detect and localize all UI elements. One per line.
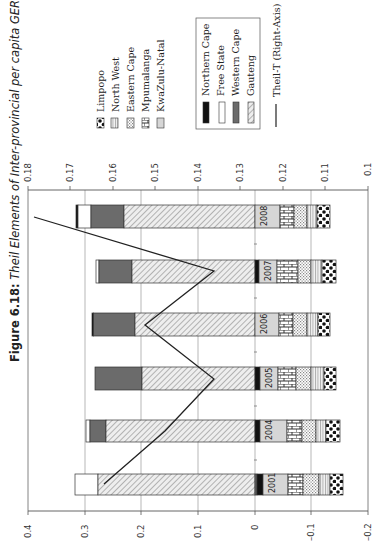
legend-swatch-western-cape (233, 102, 239, 123)
legend-swatch-gauteng (248, 102, 254, 123)
legend-swatch-free-state (219, 102, 225, 123)
right-tick: 0.18 (23, 163, 33, 182)
year-label: 2006 (260, 314, 269, 334)
legend-swatch-northern-cape (203, 102, 209, 123)
legend-label-free-state: Free State (215, 45, 226, 96)
legend-swatch-eastern-cape (127, 118, 134, 128)
left-tick: –0.2 (363, 523, 373, 541)
legend-label-theil-t: Theil-T (Right-Axis) (271, 4, 282, 97)
bar-2008 (76, 205, 330, 228)
chart-canvas (0, 0, 382, 558)
legend-swatch-north-west (111, 118, 118, 128)
left-tick: 0.1 (193, 524, 203, 538)
legend-label-north-west: North West (110, 57, 121, 112)
year-label: 2007 (264, 261, 273, 281)
year-label: 2005 (265, 368, 274, 388)
figure-title: Figure 6.18: Theil Elements of Inter-pro… (8, 0, 22, 362)
year-label: 2004 (265, 420, 274, 440)
year-label: 2008 (260, 206, 269, 226)
legend-swatch-mpumalanga (142, 118, 149, 128)
figure-caption: Theil Elements of Inter-provincial per c… (8, 0, 22, 280)
bar-2007 (96, 260, 336, 283)
legend-label-limpopo: Limpopo (95, 70, 106, 112)
year-label: 2001 (268, 473, 277, 493)
left-tick: 0 (250, 525, 260, 530)
right-tick: 0.17 (65, 163, 75, 182)
legend-label-kwazulu-natal: KwaZulu-Natal (155, 40, 166, 112)
legend-label-mpumalanga: Mpumalanga (140, 49, 151, 112)
right-tick: 0.11 (320, 163, 330, 182)
legend-label-western-cape: Western Cape (230, 29, 241, 96)
right-tick: 0.1 (363, 162, 373, 176)
plot-area (28, 186, 368, 515)
left-tick: –0.1 (306, 523, 316, 541)
bar-2005 (95, 367, 336, 390)
legend-swatch-kwazulu-natal (157, 118, 164, 128)
right-tick: 0.14 (193, 163, 203, 182)
legend-label-eastern-cape: Eastern Cape (125, 47, 136, 112)
legend-swatch-limpopo (97, 118, 104, 128)
bar-2006 (92, 313, 330, 336)
right-tick: 0.12 (278, 163, 288, 182)
theil-t-line (34, 217, 214, 484)
left-tick: 0.4 (23, 524, 33, 538)
legend-label-northern-cape: Northern Cape (200, 24, 211, 96)
figure-label: Figure 6.18: (8, 283, 22, 362)
bar-2004 (86, 420, 340, 442)
right-tick: 0.16 (108, 163, 118, 182)
left-tick: 0.2 (136, 524, 146, 538)
left-tick: 0.3 (80, 524, 90, 538)
right-tick: 0.15 (150, 163, 160, 182)
bar-2001 (75, 474, 343, 495)
legend-label-gauteng: Gauteng (245, 55, 256, 96)
right-tick: 0.13 (235, 163, 245, 182)
